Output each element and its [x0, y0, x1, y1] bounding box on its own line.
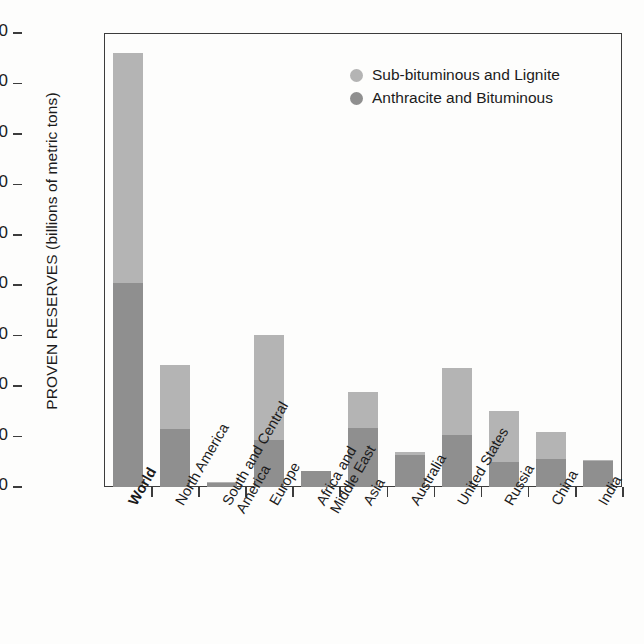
y-tick-label: 500	[0, 223, 8, 243]
x-tick-mark	[151, 487, 153, 497]
proven-reserves-bar-chart: PROVEN RESERVES (billions of metric tons…	[0, 0, 644, 644]
y-tick-label: 900	[0, 21, 8, 41]
y-tick-mark	[13, 133, 22, 135]
y-tick-mark	[13, 284, 22, 286]
y-axis-title: PROVEN RESERVES (billions of metric tons…	[43, 21, 61, 481]
bar-segment-sub-bituminous-lignite	[442, 368, 472, 435]
bar-segment-sub-bituminous-lignite	[536, 432, 566, 459]
y-tick-label: 600	[0, 172, 8, 192]
y-tick-mark	[13, 385, 22, 387]
y-tick-mark	[13, 184, 22, 186]
bar-segment-anthracite-bituminous	[113, 283, 143, 487]
y-tick-mark	[13, 32, 22, 34]
bar-united-states	[442, 368, 472, 487]
x-tick-mark	[387, 487, 389, 497]
legend-label: Anthracite and Bituminous	[372, 89, 553, 107]
circle-icon	[350, 92, 363, 105]
bar-segment-sub-bituminous-lignite	[113, 53, 143, 283]
x-tick-mark	[481, 487, 483, 497]
bar-world	[113, 53, 143, 487]
x-tick-mark	[198, 487, 200, 497]
y-tick-label: 400	[0, 273, 8, 293]
y-tick-label: 200	[0, 374, 8, 394]
y-tick-mark	[13, 83, 22, 85]
x-tick-mark	[575, 487, 577, 497]
y-tick-mark	[13, 486, 22, 488]
legend-item-sub-bituminous-lignite: Sub-bituminous and Lignite	[350, 66, 560, 84]
y-tick-label: 800	[0, 71, 8, 91]
legend: Sub-bituminous and LigniteAnthracite and…	[350, 66, 560, 112]
x-tick-mark	[292, 487, 294, 497]
x-tick-mark	[434, 487, 436, 497]
y-tick-mark	[13, 234, 22, 236]
circle-icon	[350, 69, 363, 82]
y-tick-mark	[13, 436, 22, 438]
y-tick-label: 700	[0, 122, 8, 142]
y-tick-label: 300	[0, 324, 8, 344]
y-tick-label: 0	[0, 475, 8, 495]
legend-item-anthracite-bituminous: Anthracite and Bituminous	[350, 89, 560, 107]
bar-north-america	[160, 365, 190, 487]
y-tick-mark	[13, 335, 22, 337]
y-tick-label: 100	[0, 425, 8, 445]
bar-segment-sub-bituminous-lignite	[160, 365, 190, 429]
x-tick-mark	[622, 487, 624, 497]
bar-segment-sub-bituminous-lignite	[348, 392, 378, 428]
legend-label: Sub-bituminous and Lignite	[372, 66, 560, 84]
x-tick-mark	[528, 487, 530, 497]
